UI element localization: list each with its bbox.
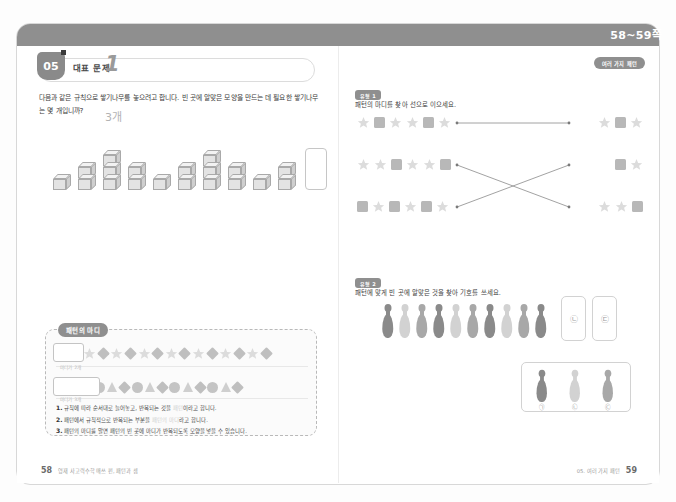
left-page-number: 58: [41, 466, 52, 475]
left-footer-text: 영재 사고력수학 매쓰 펀, 패턴과 셈: [58, 467, 138, 474]
bowling-pin: [483, 304, 496, 338]
cube-side-face: [66, 174, 71, 190]
cube-front-face: [128, 179, 141, 190]
pin-body: [602, 379, 613, 402]
bowling-pin: [466, 304, 479, 338]
diamond-icon: [118, 381, 131, 394]
connection-lines[interactable]: [339, 46, 660, 276]
bowling-pin: [534, 304, 547, 338]
bowling-pin: [517, 304, 530, 338]
star-icon: [165, 347, 178, 360]
diamond-icon: [194, 381, 207, 394]
triangle-icon: [183, 382, 193, 392]
divider: [56, 398, 308, 399]
choice-option[interactable]: [568, 368, 581, 402]
cube-stack: [153, 178, 170, 190]
pattern-rule-item: 1. 규칙에 따라 순서대로 늘어놓고, 반복되는 것을 패턴이라고 합니다.: [56, 402, 311, 414]
choice-option[interactable]: [535, 368, 548, 402]
right-page: 여러 가지 패턴 유형 1 패턴의 마디를 찾아 선으로 이으세요. 유형 2 …: [338, 46, 659, 483]
cube: [128, 178, 145, 190]
cube-front-face: [78, 179, 91, 190]
circle-icon: [132, 382, 143, 393]
cube: [103, 178, 120, 190]
pattern-unit-panel: 패턴의 마디 마디가 2개 마디가 3개 1. 규칙에 따라 순서대로 늘어놓고…: [45, 329, 317, 436]
bowling-pin: [449, 304, 462, 338]
diamond-icon: [231, 381, 244, 394]
problem-badge: 05: [37, 52, 65, 80]
diamond-icon: [151, 347, 164, 360]
star-icon: [138, 347, 151, 360]
textbook-spread-screenshot: 58~59쪽 05 대표 문제 1 다음과 같은 규칙으로 쌓기나무를 놓으려고…: [0, 0, 676, 502]
cube-stack: [203, 154, 220, 190]
cube-front-face: [253, 179, 266, 190]
connection-endpoint[interactable]: [456, 122, 459, 125]
diamond-icon: [233, 347, 246, 360]
pattern-unit-row-2: [56, 378, 308, 396]
problem-number: 1: [105, 52, 120, 76]
diamond-icon: [178, 347, 191, 360]
cube-stack: [128, 166, 145, 190]
section2-instruction: 패턴에 맞게 빈 곳에 알맞은 것을 찾아 기호를 쓰세요.: [355, 288, 501, 297]
bowling-pin: [381, 304, 394, 338]
bowling-pin: [535, 370, 547, 402]
diamond-icon: [260, 347, 273, 360]
diamond-icon: [206, 347, 219, 360]
cube-front-face: [278, 179, 291, 190]
cube-side-face: [91, 174, 96, 190]
problem-badge-dot: [61, 50, 66, 55]
star-icon: [219, 347, 232, 360]
choice-label: ㉡: [566, 403, 584, 411]
choice-label: ㉠: [533, 403, 551, 411]
header-bar: [17, 24, 659, 46]
pattern-rule-item: 3. 패턴의 마디를 알면 패턴의 빈 곳에 마디가 반복되도록 모양을 넣을 …: [56, 425, 311, 437]
cube-side-face: [191, 174, 196, 190]
blank-answer-card[interactable]: ㉡: [561, 296, 586, 341]
cube: [53, 178, 70, 190]
connection-endpoint[interactable]: [568, 206, 571, 209]
cube-front-face: [228, 179, 241, 190]
blank-answer-box[interactable]: [305, 148, 327, 190]
connection-endpoint[interactable]: [456, 164, 459, 167]
cube-stack: [78, 166, 95, 190]
bowling-pin: [601, 370, 613, 402]
pattern-unit-highlight: [53, 343, 84, 362]
cube-stack: [53, 178, 70, 190]
cube-stack: [253, 178, 270, 190]
divider: [56, 366, 308, 367]
cube-stack: [178, 166, 195, 190]
triangle-icon: [221, 382, 231, 392]
cube: [253, 178, 270, 190]
choice-option[interactable]: [601, 368, 614, 402]
problem-answer: 3개: [105, 108, 122, 124]
star-icon: [192, 347, 205, 360]
cube-front-face: [203, 179, 216, 190]
pin-body: [433, 314, 445, 338]
pin-body: [518, 314, 530, 338]
pin-body: [569, 379, 580, 402]
bowling-pin: [432, 304, 445, 338]
cube-stack: [278, 166, 295, 190]
left-page: 05 대표 문제 1 다음과 같은 규칙으로 쌓기나무를 놓으려고 합니다. 빈…: [17, 46, 338, 483]
cube-side-face: [241, 174, 246, 190]
cube-side-face: [166, 174, 171, 190]
blank-answer-card[interactable]: ㉢: [592, 296, 617, 341]
circle-icon: [207, 382, 218, 393]
section2-badge: 유형 2: [355, 278, 381, 288]
pin-body: [450, 314, 462, 338]
cube-side-face: [116, 174, 121, 190]
connection-endpoint[interactable]: [568, 164, 571, 167]
problem-question: 다음과 같은 규칙으로 쌓기나무를 놓으려고 합니다. 빈 곳에 알맞은 모양을…: [39, 92, 319, 117]
cube-front-face: [153, 179, 166, 190]
connection-endpoint[interactable]: [568, 122, 571, 125]
cube: [203, 178, 220, 190]
pin-body: [467, 314, 479, 338]
cube-side-face: [266, 174, 271, 190]
pattern-unit-row-1: [56, 344, 308, 362]
cube: [278, 178, 295, 190]
bowling-pin: [500, 304, 513, 338]
pin-body: [536, 379, 547, 402]
cube-side-face: [216, 174, 221, 190]
pin-body: [399, 314, 411, 338]
connection-endpoint[interactable]: [456, 206, 459, 209]
cube-stack-pattern: [53, 134, 321, 190]
